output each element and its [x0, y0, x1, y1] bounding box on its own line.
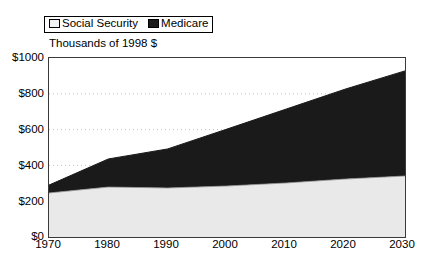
x-tick-label: 1970 — [26, 239, 70, 251]
legend-swatch-medicare-icon — [148, 19, 159, 28]
x-axis: 1970 1980 1990 2000 2010 2020 2030 — [0, 239, 422, 258]
chart-legend: Social Security Medicare — [44, 16, 213, 33]
legend-item-social-security: Social Security — [49, 18, 138, 30]
legend-label-social-security: Social Security — [62, 18, 138, 30]
x-tick-label: 2020 — [321, 239, 365, 251]
y-axis-title: Thousands of 1998 $ — [49, 37, 157, 49]
x-tick-label: 2000 — [203, 239, 247, 251]
legend-item-medicare: Medicare — [148, 18, 208, 30]
x-tick-label: 2010 — [262, 239, 306, 251]
legend-label-medicare: Medicare — [161, 18, 208, 30]
x-tick-label: 2030 — [380, 239, 422, 251]
area-series-medicare — [49, 71, 405, 193]
plot-area — [48, 57, 406, 238]
y-tick-label: $800 — [0, 88, 44, 100]
x-tick-label: 1980 — [85, 239, 129, 251]
y-tick-label: $400 — [0, 160, 44, 172]
stacked-area-plot — [49, 58, 405, 237]
y-tick-label: $600 — [0, 124, 44, 136]
y-tick-label: $200 — [0, 196, 44, 208]
x-tick-label: 1990 — [144, 239, 188, 251]
chart-container: Social Security Medicare Thousands of 19… — [0, 0, 422, 258]
y-tick-label: $1000 — [0, 52, 44, 64]
y-axis: $1000 $800 $600 $400 $200 $0 — [0, 0, 44, 258]
legend-swatch-social-security-icon — [49, 19, 60, 28]
